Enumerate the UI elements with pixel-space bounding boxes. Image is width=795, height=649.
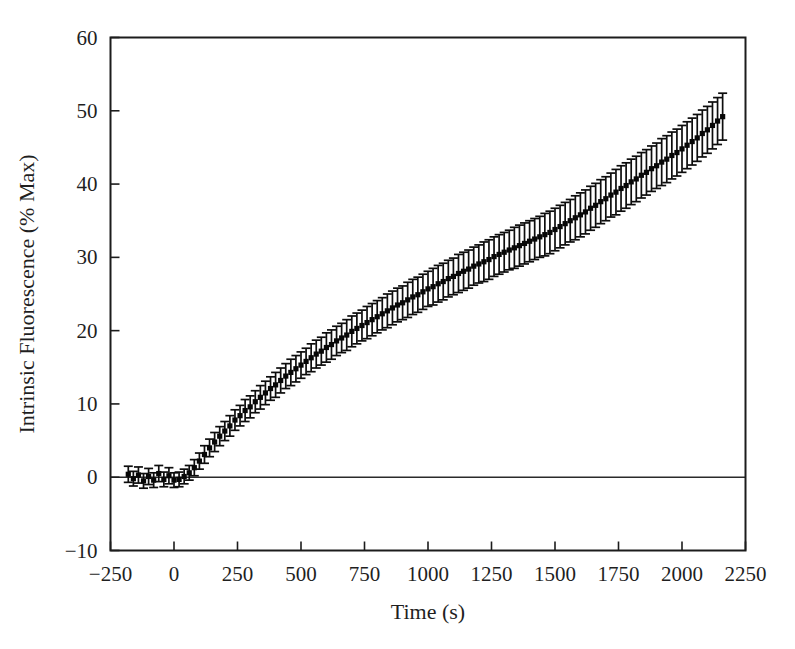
data-point-marker [502, 250, 507, 255]
data-point-marker [573, 215, 578, 220]
y-tick-label: 60 [77, 26, 98, 50]
y-tick-label: −10 [65, 539, 98, 563]
data-point-marker [644, 170, 649, 175]
data-point-marker [634, 176, 639, 181]
data-point-marker [547, 230, 552, 235]
x-tick-label: 2250 [725, 562, 767, 586]
x-tick-label: 1000 [407, 562, 449, 586]
data-point-marker [329, 342, 334, 347]
data-point-marker [217, 434, 222, 439]
data-point-marker [293, 366, 298, 371]
data-point-marker [400, 300, 405, 305]
x-tick-label: 2000 [661, 562, 703, 586]
fluorescence-time-course-chart: −2500250500750100012501500175020002250 −… [0, 0, 795, 649]
data-point-marker [618, 186, 623, 191]
data-point-marker [715, 118, 720, 123]
data-point-marker [375, 314, 380, 319]
data-point-marker [684, 143, 689, 148]
data-point-marker [263, 390, 268, 395]
data-point-marker [639, 173, 644, 178]
x-tick-label: 250 [222, 562, 254, 586]
data-point-marker [303, 359, 308, 364]
data-point-marker [654, 163, 659, 168]
data-point-marker [187, 470, 192, 475]
data-point-marker [613, 190, 618, 195]
data-point-marker [679, 146, 684, 151]
data-point-marker [425, 286, 430, 291]
chart-background [0, 0, 795, 649]
data-point-marker [700, 131, 705, 136]
data-point-marker [344, 332, 349, 337]
data-point-marker [578, 212, 583, 217]
data-point-marker [176, 477, 181, 482]
data-point-marker [659, 159, 664, 164]
data-point-marker [557, 224, 562, 229]
data-point-marker [390, 305, 395, 310]
data-point-marker [624, 183, 629, 188]
data-point-marker [314, 351, 319, 356]
data-point-marker [405, 297, 410, 302]
data-point-marker [212, 439, 217, 444]
data-point-marker [237, 413, 242, 418]
figure-container: −2500250500750100012501500175020002250 −… [0, 0, 795, 649]
data-point-marker [497, 252, 502, 257]
data-point-marker [232, 417, 237, 422]
data-point-marker [669, 153, 674, 158]
data-point-marker [486, 257, 491, 262]
x-tick-label: 0 [169, 562, 180, 586]
data-point-marker [253, 399, 258, 404]
data-point-marker [710, 123, 715, 128]
data-point-marker [583, 209, 588, 214]
data-point-marker [126, 472, 131, 477]
data-point-marker [603, 196, 608, 201]
data-point-marker [481, 259, 486, 264]
data-point-marker [364, 320, 369, 325]
y-tick-label: 10 [77, 392, 98, 416]
data-point-marker [517, 243, 522, 248]
data-point-marker [593, 203, 598, 208]
data-point-marker [370, 317, 375, 322]
data-point-marker [461, 269, 466, 274]
data-point-marker [608, 192, 613, 197]
y-tick-label: 20 [77, 319, 98, 343]
data-point-marker [410, 294, 415, 299]
data-point-marker [720, 114, 725, 119]
data-point-marker [598, 199, 603, 204]
data-point-marker [339, 335, 344, 340]
data-point-marker [446, 276, 451, 281]
y-tick-label: 40 [77, 172, 98, 196]
data-point-marker [161, 477, 166, 482]
data-point-marker [456, 271, 461, 276]
data-point-marker [283, 373, 288, 378]
data-point-marker [695, 135, 700, 140]
data-point-marker [512, 245, 517, 250]
data-point-marker [415, 292, 420, 297]
data-point-marker [436, 281, 441, 286]
data-point-marker [324, 345, 329, 350]
data-point-marker [420, 289, 425, 294]
data-point-marker [563, 221, 568, 226]
data-point-marker [298, 362, 303, 367]
data-point-marker [182, 474, 187, 479]
data-point-marker [243, 408, 248, 413]
data-point-marker [309, 355, 314, 360]
data-point-marker [476, 261, 481, 266]
data-point-marker [532, 236, 537, 241]
data-point-marker [588, 206, 593, 211]
data-point-marker [451, 274, 456, 279]
data-point-marker [166, 473, 171, 478]
data-point-marker [268, 386, 273, 391]
data-point-marker [354, 326, 359, 331]
y-tick-label: 0 [87, 465, 98, 489]
data-point-marker [273, 382, 278, 387]
data-point-marker [568, 218, 573, 223]
x-tick-label: 500 [285, 562, 317, 586]
data-point-marker [552, 227, 557, 232]
data-point-marker [359, 323, 364, 328]
data-point-marker [288, 370, 293, 375]
data-point-marker [227, 423, 232, 428]
data-point-marker [466, 266, 471, 271]
data-point-marker [527, 239, 532, 244]
data-point-marker [258, 395, 263, 400]
x-axis-title: Time (s) [391, 599, 465, 624]
